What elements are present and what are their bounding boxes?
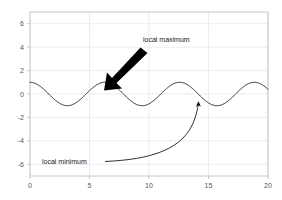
ytick-label--4: -4: [18, 137, 24, 144]
local-minimum-label: local minimum: [42, 158, 87, 165]
ytick-label--2: -2: [18, 114, 24, 121]
chart-figure: 6 4 2 0 -2 -4 -6 0 5 10 15 20 local mini…: [0, 0, 282, 200]
xtick-label-20: 20: [264, 182, 272, 189]
xtick-label-15: 15: [205, 182, 213, 189]
local-maximum-label: local maximum: [143, 36, 190, 43]
ytick-label--6: -6: [18, 161, 24, 168]
ytick-label-6: 6: [20, 20, 24, 27]
xtick-label-5: 5: [88, 182, 92, 189]
xtick-label-0: 0: [28, 182, 32, 189]
ytick-label-4: 4: [20, 44, 24, 51]
ytick-label-2: 2: [20, 67, 24, 74]
xtick-label-10: 10: [145, 182, 153, 189]
ytick-label-0: 0: [20, 91, 24, 98]
